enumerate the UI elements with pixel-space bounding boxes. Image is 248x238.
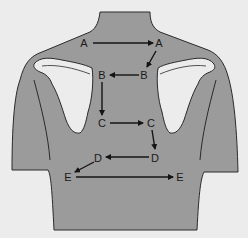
- point-label-b2: B: [140, 70, 147, 81]
- point-label-a1: A: [80, 38, 87, 49]
- point-label-a2: A: [155, 38, 162, 49]
- point-label-d2: D: [151, 153, 159, 164]
- torso-illustration: [0, 0, 248, 238]
- point-label-e2: E: [176, 172, 183, 183]
- point-label-c2: C: [147, 118, 155, 129]
- torso-silhouette: [12, 12, 238, 230]
- point-label-e1: E: [64, 172, 71, 183]
- point-label-b1: B: [98, 70, 105, 81]
- diagram-canvas: AABBCCDDEE: [0, 0, 248, 238]
- point-label-d1: D: [94, 153, 102, 164]
- point-label-c1: C: [98, 118, 106, 129]
